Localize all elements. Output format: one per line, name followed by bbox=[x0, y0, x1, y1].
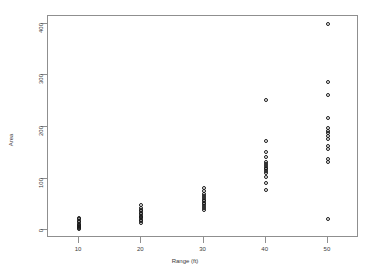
data-point bbox=[264, 175, 268, 179]
data-point bbox=[77, 216, 81, 220]
plot-area bbox=[47, 15, 358, 237]
y-tick-label: 400 bbox=[38, 23, 44, 33]
x-tick-mark bbox=[265, 237, 266, 243]
y-tick-label: 100 bbox=[38, 178, 44, 188]
data-point bbox=[264, 98, 268, 102]
data-point bbox=[264, 155, 268, 159]
data-point bbox=[264, 181, 268, 185]
x-tick-mark bbox=[78, 237, 79, 243]
y-tick-label: 200 bbox=[38, 126, 44, 136]
x-tick-label: 30 bbox=[199, 246, 206, 252]
data-point bbox=[264, 139, 268, 143]
data-point bbox=[326, 137, 330, 141]
y-axis-title-text: Area bbox=[8, 133, 14, 146]
data-point bbox=[326, 22, 330, 26]
data-point bbox=[326, 157, 330, 161]
data-point bbox=[264, 188, 268, 192]
y-axis-title: Area bbox=[6, 0, 16, 279]
data-point bbox=[202, 186, 206, 190]
data-point bbox=[264, 150, 268, 154]
data-point bbox=[326, 217, 330, 221]
data-point bbox=[326, 93, 330, 97]
data-point bbox=[326, 144, 330, 148]
x-tick-mark bbox=[327, 237, 328, 243]
x-axis-title: Range (ft) bbox=[0, 258, 370, 264]
x-tick-label: 40 bbox=[261, 246, 268, 252]
y-tick-label: 300 bbox=[38, 74, 44, 84]
x-tick-label: 20 bbox=[137, 246, 144, 252]
data-point bbox=[326, 80, 330, 84]
data-point bbox=[326, 116, 330, 120]
x-tick-label: 50 bbox=[324, 246, 331, 252]
x-tick-mark bbox=[140, 237, 141, 243]
data-point bbox=[264, 160, 268, 164]
scatter-plot: Area Range (ft) 01002003004001020304050 bbox=[0, 0, 370, 279]
data-point bbox=[326, 126, 330, 130]
x-tick-label: 10 bbox=[75, 246, 82, 252]
x-tick-mark bbox=[203, 237, 204, 243]
y-tick-label: 0 bbox=[38, 229, 44, 232]
